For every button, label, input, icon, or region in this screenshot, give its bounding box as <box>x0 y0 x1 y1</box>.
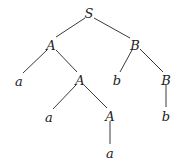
tree-edge <box>56 50 77 72</box>
tree-edge <box>23 50 47 73</box>
tree-node-label: a <box>106 146 114 161</box>
tree-edge <box>84 85 107 108</box>
parse-tree-diagram: SABaAbBaAba <box>0 0 179 168</box>
tree-node-label: B <box>160 73 171 88</box>
tree-node-label: b <box>162 109 170 124</box>
tree-node-label: a <box>45 110 53 125</box>
tree-node-label: S <box>85 6 94 21</box>
tree-node-label: b <box>113 73 121 88</box>
tree-edge <box>56 18 85 37</box>
tree-node-label: A <box>74 73 84 88</box>
tree-edge <box>94 18 130 38</box>
tree-edge <box>140 49 163 72</box>
tree-node-label: B <box>129 38 140 53</box>
tree-edge <box>120 50 132 72</box>
tree-node-label: A <box>104 109 114 124</box>
tree-edge <box>53 85 76 109</box>
tree-node-label: A <box>45 38 55 53</box>
tree-nodes: SABaAbBaAba <box>15 6 171 161</box>
tree-edges <box>23 18 166 144</box>
tree-node-label: a <box>15 74 23 89</box>
